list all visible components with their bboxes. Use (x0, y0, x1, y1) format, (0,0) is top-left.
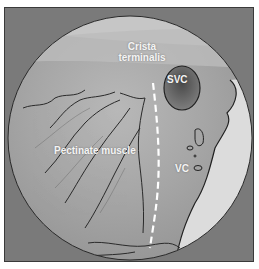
crista-line1: Crista (112, 41, 172, 52)
svc-label: SVC (167, 74, 188, 85)
crista-terminalis-label: Crista terminalis (112, 41, 172, 63)
crista-line2: terminalis (112, 52, 172, 63)
figure-frame: Crista terminalis SVC VC Pectinate muscl… (4, 7, 254, 262)
vc-label: VC (175, 163, 189, 174)
pectinate-muscle-label: Pectinate muscle (54, 145, 136, 156)
